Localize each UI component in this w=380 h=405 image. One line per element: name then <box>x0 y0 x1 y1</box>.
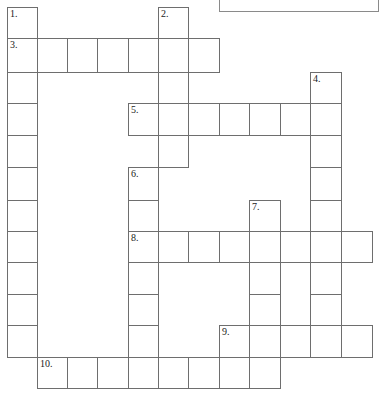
crossword-cell[interactable] <box>128 38 159 73</box>
crossword-cell[interactable] <box>219 357 250 389</box>
crossword-cell[interactable] <box>249 262 281 295</box>
crossword-cell[interactable] <box>280 103 311 136</box>
crossword-cell[interactable] <box>249 231 281 263</box>
crossword-cell[interactable] <box>249 357 281 389</box>
crossword-cell[interactable] <box>7 200 38 232</box>
crossword-cell[interactable] <box>310 262 342 295</box>
clue-number: 2. <box>161 8 169 20</box>
crossword-cell[interactable] <box>158 72 189 104</box>
crossword-cell[interactable] <box>310 103 342 136</box>
crossword-cell[interactable] <box>128 294 159 326</box>
crossword-cell[interactable] <box>280 325 311 358</box>
crossword-cell[interactable] <box>341 231 373 263</box>
crossword-cell[interactable] <box>188 231 220 263</box>
crossword-cell[interactable] <box>188 38 220 73</box>
crossword-cell[interactable] <box>310 231 342 263</box>
crossword-cell-numbered[interactable]: 7. <box>249 200 281 232</box>
crossword-cell[interactable] <box>188 103 220 136</box>
crossword-cell[interactable] <box>7 231 38 263</box>
crossword-cell[interactable] <box>7 103 38 136</box>
crossword-cell[interactable] <box>7 262 38 295</box>
crossword-cell[interactable] <box>310 167 342 201</box>
crossword-cell-numbered[interactable]: 10. <box>37 357 68 389</box>
crossword-cell[interactable] <box>128 262 159 295</box>
crossword-cell[interactable] <box>219 231 250 263</box>
clue-number: 8. <box>131 232 139 244</box>
crossword-cell-numbered[interactable]: 6. <box>128 167 159 201</box>
crossword-cell[interactable] <box>128 357 159 389</box>
crossword-cell[interactable] <box>7 325 38 358</box>
crossword-cell[interactable] <box>97 38 129 73</box>
clue-number: 3. <box>10 39 18 51</box>
crossword-cell[interactable] <box>310 135 342 168</box>
crossword-cell-numbered[interactable]: 2. <box>158 7 189 39</box>
crossword-cell[interactable] <box>341 325 373 358</box>
crossword-cell[interactable] <box>158 38 189 73</box>
clue-number: 10. <box>40 358 53 370</box>
crossword-cell-numbered[interactable]: 8. <box>128 231 159 263</box>
clue-number: 4. <box>313 73 321 85</box>
crossword-cell[interactable] <box>310 200 342 232</box>
clue-number: 9. <box>222 326 230 338</box>
clue-number: 5. <box>131 104 139 116</box>
crossword-cell[interactable] <box>128 325 159 358</box>
crossword-cell[interactable] <box>97 357 129 389</box>
crossword-cell[interactable] <box>128 200 159 232</box>
crossword-cell-numbered[interactable]: 9. <box>219 325 250 358</box>
crossword-grid[interactable]: 1.3.2.4.5.6.8.7.9.10. <box>0 0 380 405</box>
crossword-cell-numbered[interactable]: 3. <box>7 38 38 73</box>
crossword-cell[interactable] <box>188 357 220 389</box>
crossword-cell[interactable] <box>280 231 311 263</box>
crossword-cell[interactable] <box>158 135 189 168</box>
crossword-cell[interactable] <box>249 325 281 358</box>
crossword-cell[interactable] <box>158 357 189 389</box>
crossword-cell-numbered[interactable]: 5. <box>128 103 159 136</box>
crossword-cell[interactable] <box>249 294 281 326</box>
crossword-cell[interactable] <box>7 135 38 168</box>
crossword-cell[interactable] <box>67 38 98 73</box>
crossword-cell[interactable] <box>158 231 189 263</box>
crossword-cell[interactable] <box>7 72 38 104</box>
crossword-puzzle: Name Supplies 1.3.2.4.5.6.8.7.9.10. <box>0 0 380 405</box>
clue-number: 7. <box>252 201 260 213</box>
crossword-cell[interactable] <box>158 103 189 136</box>
crossword-cell[interactable] <box>310 325 342 358</box>
clue-number: 6. <box>131 168 139 180</box>
crossword-cell[interactable] <box>249 103 281 136</box>
crossword-cell[interactable] <box>7 167 38 201</box>
crossword-cell[interactable] <box>67 357 98 389</box>
crossword-cell[interactable] <box>219 103 250 136</box>
crossword-cell[interactable] <box>7 294 38 326</box>
clue-number: 1. <box>10 8 18 20</box>
crossword-cell-numbered[interactable]: 1. <box>7 7 38 39</box>
crossword-cell[interactable] <box>37 38 68 73</box>
crossword-cell-numbered[interactable]: 4. <box>310 72 342 104</box>
crossword-cell[interactable] <box>310 294 342 326</box>
